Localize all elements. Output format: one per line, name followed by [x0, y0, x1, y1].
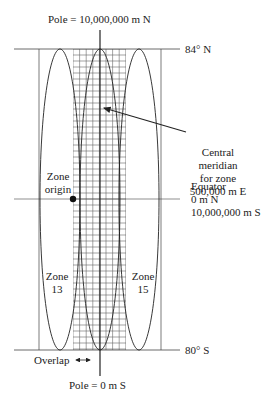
zone-origin-line2: origin [38, 183, 78, 196]
north-pole-label: Pole = 10,000,000 m N [48, 13, 151, 26]
zone-13-line1: Zone [42, 270, 72, 283]
zone-15-line2: 15 [128, 283, 158, 296]
central-meridian-arrow [104, 108, 186, 132]
zone-15-ellipse [119, 49, 159, 350]
zone-13-line2: 13 [42, 283, 72, 296]
south-pole-label: Pole = 0 m S [69, 379, 126, 392]
equator-label: Equator 0 m N 10,000,000 m S [191, 180, 261, 219]
zone-15-line1: Zone [128, 270, 158, 283]
central-meridian-line1: Central [178, 146, 258, 159]
zone-origin-label: Zone origin [38, 170, 78, 196]
overlap-label: Overlap [34, 354, 69, 367]
equator-line1: Equator [191, 180, 261, 193]
zone-origin-line1: Zone [38, 170, 78, 183]
north-latitude-label: 84° N [185, 43, 211, 56]
zone-13-label: Zone 13 [42, 270, 72, 296]
zone-15-label: Zone 15 [128, 270, 158, 296]
south-latitude-label: 80° S [185, 344, 209, 357]
equator-line2: 0 m N [191, 193, 261, 206]
equator-line3: 10,000,000 m S [191, 206, 261, 219]
central-meridian-line2: meridian [178, 159, 258, 172]
zone-origin-dot [70, 196, 76, 202]
